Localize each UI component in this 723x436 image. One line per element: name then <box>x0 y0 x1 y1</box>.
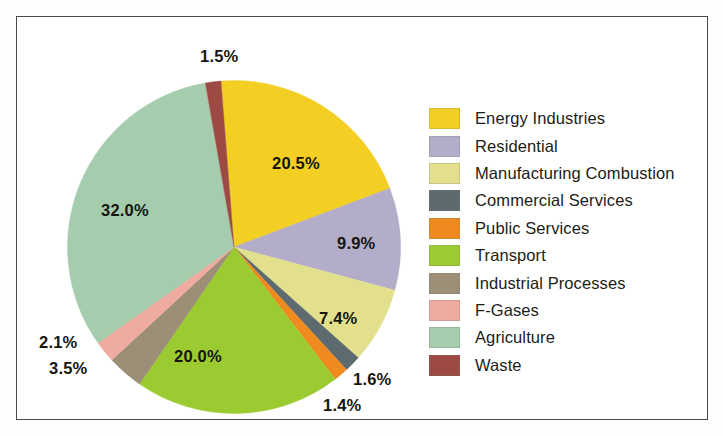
pie-slice-percentage-label: 32.0% <box>101 201 149 220</box>
pie-slice-percentage-label: 7.4% <box>319 309 357 328</box>
legend-item[interactable]: Industrial Processes <box>429 269 709 296</box>
chart-figure: 1.5%20.5%9.9%7.4%1.6%1.4%20.0%3.5%2.1%32… <box>0 0 723 436</box>
legend-item[interactable]: Manufacturing Combustion <box>429 160 709 187</box>
pie-slice-percentage-label: 20.0% <box>174 347 222 366</box>
legend-item-label: Industrial Processes <box>475 274 626 293</box>
legend-color-swatch <box>429 245 460 266</box>
pie-slice-percentage-label: 1.6% <box>353 370 391 389</box>
legend-color-swatch <box>429 273 460 294</box>
legend-color-swatch <box>429 355 460 376</box>
legend-item[interactable]: Residential <box>429 132 709 159</box>
pie-slice-percentage-label: 20.5% <box>272 154 320 173</box>
legend-color-swatch <box>429 190 460 211</box>
legend-item-label: Agriculture <box>475 328 555 347</box>
legend-color-swatch <box>429 163 460 184</box>
pie-slice-percentage-label: 9.9% <box>337 234 375 253</box>
legend-color-swatch <box>429 136 460 157</box>
chart-legend: Energy IndustriesResidentialManufacturin… <box>429 105 709 379</box>
legend-item-label: Waste <box>475 356 522 375</box>
chart-frame: 1.5%20.5%9.9%7.4%1.6%1.4%20.0%3.5%2.1%32… <box>16 16 708 420</box>
pie-slice-percentage-label: 1.4% <box>323 396 361 415</box>
legend-item-label: F-Gases <box>475 301 539 320</box>
legend-color-swatch <box>429 108 460 129</box>
legend-color-swatch <box>429 327 460 348</box>
legend-item-label: Commercial Services <box>475 191 633 210</box>
legend-item[interactable]: Transport <box>429 242 709 269</box>
legend-item[interactable]: Energy Industries <box>429 105 709 132</box>
legend-item-label: Energy Industries <box>475 109 605 128</box>
legend-item[interactable]: Public Services <box>429 215 709 242</box>
legend-item-label: Public Services <box>475 219 589 238</box>
legend-item-label: Residential <box>475 137 558 156</box>
pie-slice-percentage-label: 3.5% <box>49 359 87 378</box>
pie-slice-percentage-label: 2.1% <box>39 333 77 352</box>
legend-item[interactable]: Waste <box>429 352 709 379</box>
legend-item[interactable]: F-Gases <box>429 297 709 324</box>
pie-slice-percentage-label: 1.5% <box>200 47 238 66</box>
legend-item[interactable]: Agriculture <box>429 324 709 351</box>
legend-color-swatch <box>429 218 460 239</box>
legend-item-label: Manufacturing Combustion <box>475 164 675 183</box>
legend-item-label: Transport <box>475 246 546 265</box>
legend-color-swatch <box>429 300 460 321</box>
legend-item[interactable]: Commercial Services <box>429 187 709 214</box>
